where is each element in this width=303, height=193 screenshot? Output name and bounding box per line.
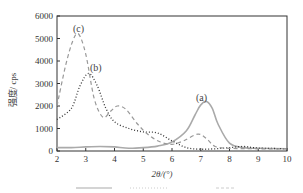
annotation-a: (a) (196, 92, 207, 104)
x-tick-label: 6 (170, 154, 175, 164)
x-tick-label: 8 (227, 154, 232, 164)
y-tick-label: 4000 (35, 56, 54, 66)
x-tick-label: 7 (199, 154, 204, 164)
series-a-line (57, 101, 287, 148)
x-tick-label: 10 (283, 154, 293, 164)
y-tick-label: 1000 (35, 124, 54, 134)
y-tick-label: 0 (49, 146, 54, 156)
x-tick-label: 5 (141, 154, 146, 164)
x-tick-label: 4 (112, 154, 117, 164)
y-tick-label: 3000 (35, 79, 54, 89)
x-tick-label: 3 (84, 154, 89, 164)
y-tick-label: 6000 (35, 11, 54, 21)
y-axis-ticks: 0100020003000400050006000 (35, 11, 60, 156)
y-tick-label: 2000 (35, 101, 54, 111)
series-c-line (57, 33, 287, 148)
x-axis-title: 2θ/(°) (151, 169, 172, 179)
annotations: (c) (b) (a) (73, 23, 207, 104)
series-layer (57, 33, 287, 149)
y-axis-title: 强度/ cps (7, 72, 18, 107)
xrd-chart: 0100020003000400050006000 2345678910 (c)… (0, 0, 303, 193)
x-tick-label: 2 (55, 154, 60, 164)
annotation-b: (b) (90, 62, 102, 74)
annotation-c: (c) (73, 23, 84, 35)
x-axis-ticks: 2345678910 (55, 148, 292, 164)
x-tick-label: 9 (256, 154, 261, 164)
y-tick-label: 5000 (35, 34, 54, 44)
